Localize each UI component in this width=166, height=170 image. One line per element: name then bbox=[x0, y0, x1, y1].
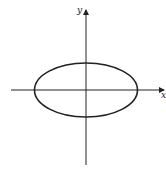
y-axis-label: y bbox=[76, 5, 83, 15]
x-axis-label: x bbox=[161, 90, 166, 100]
coordinate-diagram: y x bbox=[0, 0, 166, 170]
